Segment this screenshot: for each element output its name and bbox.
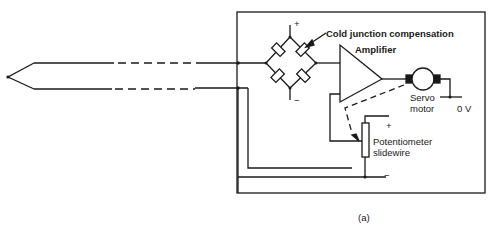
wire-lower-lead bbox=[248, 88, 352, 168]
arrow-head-icon bbox=[306, 40, 314, 47]
pot-plus-label: + bbox=[386, 120, 392, 131]
amplifier-label: Amplifier bbox=[355, 44, 396, 55]
figure-caption: (a) bbox=[358, 212, 370, 223]
servo-label-2: motor bbox=[410, 103, 434, 114]
instrument-enclosure bbox=[237, 12, 485, 193]
cold-junction-label: Cold junction compensation bbox=[326, 28, 454, 39]
pot-label-1: Potentiometer bbox=[373, 136, 432, 147]
servo-motor-icon bbox=[406, 68, 440, 90]
pot-label-2: slidewire bbox=[373, 147, 410, 158]
servo-label-1: Servo bbox=[410, 92, 435, 103]
bridge-plus-label: + bbox=[294, 18, 300, 29]
pot-minus-label: − bbox=[384, 170, 390, 181]
potentiometer-icon bbox=[362, 123, 369, 157]
thermocouple-probe bbox=[8, 63, 266, 89]
bridge-minus-label: − bbox=[294, 95, 300, 106]
zero-volt-label: 0 V bbox=[457, 103, 471, 114]
